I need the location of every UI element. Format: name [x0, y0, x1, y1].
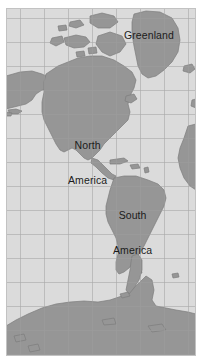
landmass-arctic-islet-d	[76, 51, 85, 57]
landmass-arctic-islet-b	[58, 25, 67, 31]
landmass-south-georgia	[172, 273, 179, 278]
landmass-lesser-antilles	[144, 167, 149, 173]
map-vector-layer	[6, 8, 196, 356]
map-screenshot: Greenland North America South America	[0, 0, 201, 362]
map-canvas[interactable]: Greenland North America South America	[6, 8, 196, 356]
landmass-hispaniola	[130, 164, 140, 169]
